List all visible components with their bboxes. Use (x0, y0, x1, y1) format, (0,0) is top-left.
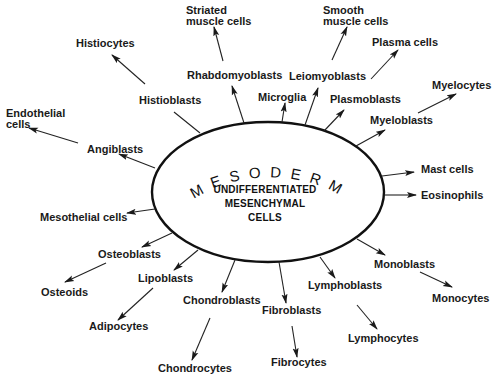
arrow-to-plasma-cells (371, 50, 398, 79)
center-line-2: MESENCHYMAL (225, 198, 306, 209)
label-leiomyoblasts: Leiomyoblasts (289, 70, 366, 82)
label-myelocytes: Myelocytes (432, 79, 491, 91)
arrow-to-lymphocytes (357, 305, 377, 329)
label-mesothelial-cells: Mesothelial cells (40, 211, 127, 223)
label-chondroblasts: Chondroblasts (183, 294, 261, 306)
arrow-to-chondroblasts (222, 260, 235, 292)
label-osteoids: Osteoids (41, 286, 88, 298)
arrow-to-leiomyoblasts (305, 88, 318, 125)
label-fibroblasts: Fibroblasts (262, 304, 321, 316)
label-fibrocytes: Fibrocytes (271, 356, 327, 368)
arrow-to-striated-muscle-cells (214, 27, 223, 61)
arrow-to-myelocytes (418, 94, 456, 113)
arrow-to-fibroblasts (279, 262, 286, 303)
arrow-to-osteoids (65, 263, 106, 282)
label-adipocytes: Adipocytes (89, 320, 148, 332)
label-monoblasts: Monoblasts (374, 258, 435, 270)
arrow-to-monocytes (420, 272, 452, 287)
label-lymphoblasts: Lymphoblasts (308, 279, 382, 291)
label-eosinophils: Eosinophils (421, 189, 483, 201)
line-histioblasts (174, 112, 200, 133)
arrow-to-mesothelial-cells (127, 209, 155, 213)
arrow-to-fibrocytes (292, 326, 297, 357)
center-line-3: CELLS (248, 212, 282, 223)
center-line-1: UNDIFFERENTIATED (213, 184, 316, 195)
arrow-to-plasmoblasts (324, 110, 344, 131)
label-plasmoblasts: Plasmoblasts (330, 93, 401, 105)
label-mast-cells: Mast cells (421, 163, 474, 175)
label-lipoblasts: Lipoblasts (138, 272, 193, 284)
arrow-to-microglia (282, 103, 285, 122)
arrow-to-endothelial-cells (29, 128, 78, 143)
label-microglia: Microglia (258, 91, 307, 103)
label-monocytes: Monocytes (432, 292, 489, 304)
label-endothelial-cells-2: cells (6, 118, 30, 130)
label-osteoblasts: Osteoblasts (98, 248, 161, 260)
label-myeloblasts: Myeloblasts (370, 114, 433, 126)
arrow-to-lymphoblasts (320, 257, 335, 278)
label-histiocytes: Histiocytes (76, 37, 135, 49)
label-chondrocytes: Chondrocytes (158, 362, 232, 374)
label-striated-muscle-cells-2: muscle cells (186, 15, 251, 27)
label-plasma-cells: Plasma cells (372, 36, 438, 48)
arrow-to-smooth-muscle-cells (332, 27, 347, 60)
arrow-to-rhabdomyoblasts (232, 86, 244, 123)
arrow-to-lipoblasts (174, 250, 198, 270)
label-smooth-muscle-cells-2: muscle cells (323, 15, 388, 27)
label-rhabdomyoblasts: Rhabdomyoblasts (187, 69, 282, 81)
mesoderm-differentiation-diagram: MESODERM UNDIFFERENTIATED MESENCHYMAL CE… (0, 0, 494, 379)
arrow-to-osteoblasts (142, 233, 172, 247)
label-histioblasts: Histioblasts (139, 94, 201, 106)
arrow-to-adipocytes (118, 288, 153, 320)
arrow-to-angiblasts (119, 154, 155, 168)
arrow-to-chondrocytes (192, 318, 210, 360)
label-angiblasts: Angiblasts (87, 143, 143, 155)
label-lymphocytes: Lymphocytes (348, 332, 419, 344)
arrow-to-myeloblasts (356, 130, 385, 146)
arrow-to-mast-cells (382, 172, 414, 176)
arrow-to-histiocytes (112, 55, 145, 84)
arrow-to-monoblasts (357, 239, 385, 255)
